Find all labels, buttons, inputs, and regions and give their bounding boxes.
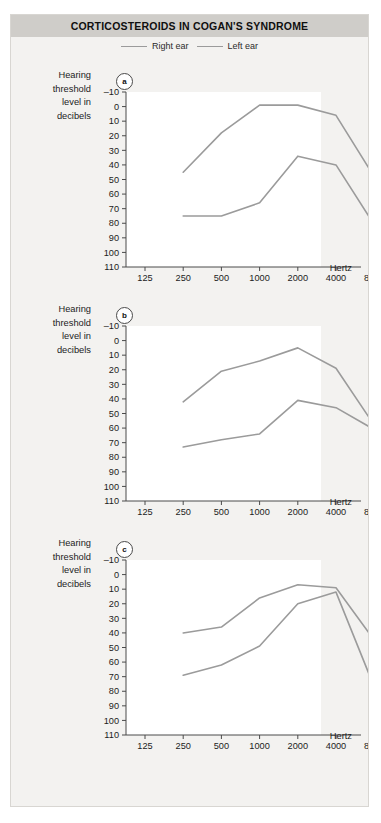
y-tick-label: 20 (109, 365, 119, 375)
y-tick-label: 90 (109, 701, 119, 711)
x-tick-label: 8000 (364, 507, 369, 517)
plot-area-b: –100102030405060708090100110125250500100… (11, 293, 369, 521)
x-tick-label: 250 (176, 507, 191, 517)
x-axis-label-a: Hertz (330, 263, 352, 273)
x-tick-label: 1000 (249, 507, 269, 517)
y-tick-label: 80 (109, 452, 119, 462)
y-tick-label: 100 (104, 716, 119, 726)
x-tick-label: 250 (176, 273, 191, 283)
y-tick-label: –10 (104, 87, 119, 97)
panel-c: Hearingthresholdlevel indecibels –100102… (11, 527, 369, 755)
panel-tag-a: a (116, 73, 133, 90)
y-tick-label: 110 (104, 730, 119, 740)
y-tick-label: 40 (109, 394, 119, 404)
plot-area-a: –100102030405060708090100110125250500100… (11, 59, 369, 287)
y-tick-label: 30 (109, 380, 119, 390)
x-tick-label: 2000 (288, 741, 308, 751)
legend-item-left-ear: Left ear (197, 41, 259, 51)
figure-title-bar: CORTICOSTEROIDS IN COGAN'S SYNDROME (11, 15, 368, 37)
y-tick-label: 30 (109, 146, 119, 156)
legend-swatch-right-ear (121, 46, 147, 47)
y-tick-label: 90 (109, 467, 119, 477)
y-tick-label: 50 (109, 175, 119, 185)
y-tick-label: 60 (109, 657, 119, 667)
audiogram-svg-b: –100102030405060708090100110125250500100… (11, 293, 369, 521)
panel-a: Hearingthresholdlevel indecibels –100102… (11, 59, 369, 287)
y-tick-label: 30 (109, 614, 119, 624)
audiogram-svg-a: –100102030405060708090100110125250500100… (11, 59, 369, 287)
page-title: CORTICOSTEROIDS IN COGAN'S SYNDROME (71, 20, 309, 32)
y-tick-label: 0 (114, 336, 119, 346)
y-tick-label: 70 (109, 672, 119, 682)
y-tick-label: 50 (109, 643, 119, 653)
x-tick-label: 125 (137, 741, 152, 751)
y-tick-label: 70 (109, 204, 119, 214)
x-tick-label: 8000 (364, 273, 369, 283)
audiogram-svg-c: –100102030405060708090100110125250500100… (11, 527, 369, 755)
panel-tag-b: b (116, 307, 133, 324)
x-tick-label: 8000 (364, 741, 369, 751)
y-tick-label: 100 (104, 248, 119, 258)
y-tick-label: 0 (114, 570, 119, 580)
y-tick-label: 10 (109, 584, 119, 594)
legend-swatch-left-ear (197, 46, 223, 47)
y-tick-label: 90 (109, 233, 119, 243)
x-tick-label: 125 (137, 507, 152, 517)
x-tick-label: 2000 (288, 273, 308, 283)
x-tick-label: 4000 (326, 273, 346, 283)
x-tick-label: 2000 (288, 507, 308, 517)
legend-label-right-ear: Right ear (152, 41, 189, 51)
y-tick-label: –10 (104, 321, 119, 331)
x-tick-label: 500 (214, 273, 229, 283)
y-tick-label: 110 (104, 496, 119, 506)
y-tick-label: 40 (109, 628, 119, 638)
y-tick-label: 70 (109, 438, 119, 448)
x-tick-label: 125 (137, 273, 152, 283)
panel-tag-c: c (116, 541, 133, 558)
x-tick-label: 500 (214, 741, 229, 751)
y-tick-label: 60 (109, 423, 119, 433)
legend-item-right-ear: Right ear (121, 41, 189, 51)
y-tick-label: 20 (109, 599, 119, 609)
x-tick-label: 1000 (249, 273, 269, 283)
x-axis-label-c: Hertz (330, 731, 352, 741)
y-tick-label: 80 (109, 218, 119, 228)
legend-label-left-ear: Left ear (228, 41, 259, 51)
plot-area-c: –100102030405060708090100110125250500100… (11, 527, 369, 755)
figure-container: CORTICOSTEROIDS IN COGAN'S SYNDROME Righ… (10, 14, 369, 807)
y-tick-label: 40 (109, 160, 119, 170)
y-tick-label: 60 (109, 189, 119, 199)
y-tick-label: –10 (104, 555, 119, 565)
x-tick-label: 500 (214, 507, 229, 517)
y-tick-label: 100 (104, 482, 119, 492)
y-tick-label: 10 (109, 350, 119, 360)
legend: Right ear Left ear (11, 41, 368, 51)
y-tick-label: 80 (109, 686, 119, 696)
x-tick-label: 250 (176, 741, 191, 751)
y-tick-label: 50 (109, 409, 119, 419)
x-tick-label: 1000 (249, 741, 269, 751)
y-tick-label: 110 (104, 262, 119, 272)
x-tick-label: 4000 (326, 507, 346, 517)
y-tick-label: 20 (109, 131, 119, 141)
x-tick-label: 4000 (326, 741, 346, 751)
y-tick-label: 0 (114, 102, 119, 112)
x-axis-label-b: Hertz (330, 497, 352, 507)
panel-b: Hearingthresholdlevel indecibels –100102… (11, 293, 369, 521)
y-tick-label: 10 (109, 116, 119, 126)
